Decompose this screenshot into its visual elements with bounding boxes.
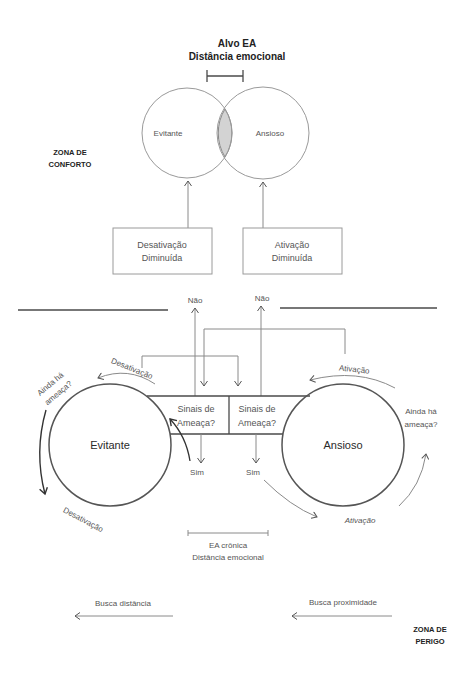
anxious-label: Ansioso [323, 439, 362, 451]
avoidant-label-top: Evitante [154, 129, 183, 138]
middle-section: Não Não Sinais de Ameaça? Sinais de Amea… [35, 294, 438, 562]
attachment-diagram: Alvo EA Distância emocional Evitante Ans… [0, 0, 463, 674]
svg-text:Ainda há: Ainda há [405, 407, 437, 416]
seek-distance-label: Busca distância [95, 599, 152, 608]
svg-text:Sinais de: Sinais de [238, 404, 275, 414]
danger-zone-label: ZONA DE PERIGO [413, 625, 446, 646]
target-distance-bracket [207, 70, 243, 82]
right-loop-up-arrow [399, 454, 426, 506]
deactivation-top-label: Desativação [110, 356, 155, 381]
chronic-ea-label: EA crônica [209, 541, 248, 550]
seek-proximity-label: Busca proximidade [309, 598, 378, 607]
box-activation-diminished: Ativação Diminuída [243, 228, 342, 274]
comfort-zone-label: ZONA DE CONFORTO [49, 148, 92, 169]
svg-text:Desativação: Desativação [137, 240, 187, 250]
top-section: Alvo EA Distância emocional Evitante Ans… [49, 38, 342, 274]
left-loop-down-arrow [40, 410, 46, 494]
yes-label-left: Sim [190, 468, 204, 477]
activation-bottom-label: Ativação [344, 516, 376, 525]
svg-text:ZONA DE: ZONA DE [413, 625, 446, 634]
chronic-distance-bracket [188, 530, 268, 536]
svg-text:Ameaça?: Ameaça? [238, 418, 276, 428]
deactivation-bottom-label: Desativação [62, 505, 106, 534]
svg-text:CONFORTO: CONFORTO [49, 160, 92, 169]
activation-arc-arrow [310, 376, 395, 389]
svg-text:ameaça?: ameaça? [405, 420, 438, 429]
yes-label-right: Sim [246, 468, 260, 477]
yes-right-to-anxious-arrow [264, 480, 317, 517]
chronic-distance-label: Distância emocional [192, 553, 264, 562]
bottom-section: Busca distância Busca proximidade ZONA D… [75, 598, 447, 646]
threat-signals-box: Sinais de Ameaça? Sinais de Ameaça? [147, 396, 310, 434]
target-subtitle: Distância emocional [189, 51, 286, 62]
left-still-threat-label: Ainda há ameaça? [35, 370, 74, 407]
svg-text:PERIGO: PERIGO [415, 637, 444, 646]
svg-text:ZONA DE: ZONA DE [53, 148, 86, 157]
no-label-right: Não [255, 294, 270, 303]
connector-deactivation-to-right [142, 356, 238, 386]
right-still-threat-label: Ainda há ameaça? [405, 407, 438, 429]
box-deactivation-diminished: Desativação Diminuída [113, 228, 212, 274]
no-label-left: Não [188, 296, 203, 305]
svg-text:Ativação: Ativação [275, 240, 310, 250]
svg-text:Ameaça?: Ameaça? [177, 418, 215, 428]
anxious-label-top: Ansioso [256, 129, 285, 138]
avoidant-label: Evitante [90, 439, 130, 451]
activation-top-label: Ativação [339, 363, 371, 375]
svg-text:Diminuída: Diminuída [272, 253, 313, 263]
svg-text:Diminuída: Diminuída [142, 253, 183, 263]
svg-text:Sinais de: Sinais de [177, 404, 214, 414]
target-title: Alvo EA [218, 38, 256, 49]
